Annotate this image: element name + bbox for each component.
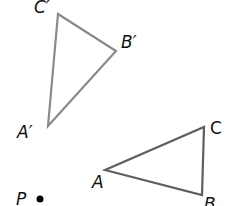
label-b: B — [204, 196, 216, 206]
label-b-prime: B′ — [121, 34, 137, 51]
label-c: C — [210, 120, 222, 137]
triangle-abc — [105, 127, 204, 195]
label-c-prime: C′ — [34, 0, 50, 16]
label-p: P — [16, 191, 26, 206]
label-a-prime: A′ — [17, 124, 33, 141]
point-p — [37, 196, 44, 203]
label-a: A — [92, 174, 104, 191]
triangle-a-prime-b-prime-c-prime — [48, 14, 116, 126]
diagram-canvas — [0, 0, 230, 206]
